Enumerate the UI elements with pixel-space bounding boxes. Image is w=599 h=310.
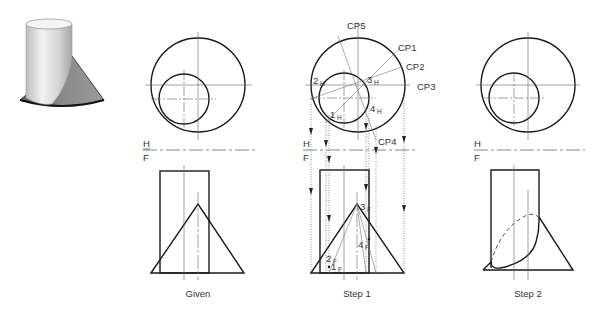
step2-h-label: H — [474, 138, 481, 149]
pictorial-3d-model — [20, 19, 104, 106]
given-front-view — [151, 165, 244, 280]
svg-text:F: F — [367, 206, 371, 213]
cutting-plane-cp1-line — [325, 48, 400, 123]
given-h-label: H — [143, 138, 150, 149]
label-cp2: CP2 — [406, 61, 424, 72]
step1-f-label: F — [303, 152, 309, 163]
point-1h: 1 H — [330, 109, 342, 121]
caption-given: Given — [186, 288, 211, 299]
svg-text:F: F — [365, 244, 369, 251]
caption-step2: Step 2 — [514, 288, 541, 299]
step2-top-view — [476, 32, 580, 140]
svg-text:4: 4 — [358, 239, 363, 250]
given-f-label: F — [143, 152, 149, 163]
label-cp4: CP4 — [378, 136, 396, 147]
svg-text:F: F — [338, 266, 342, 273]
caption-step1: Step 1 — [343, 288, 370, 299]
svg-text:H: H — [377, 108, 382, 115]
step2-f-label: F — [474, 152, 480, 163]
svg-text:1: 1 — [330, 109, 335, 120]
svg-text:4: 4 — [370, 103, 375, 114]
svg-text:3: 3 — [360, 201, 365, 212]
orthographic-drawing: H F Given CP5 CP1 CP2 CP3 CP4 — [0, 0, 599, 310]
step1-h-label: H — [303, 138, 310, 149]
label-cp1: CP1 — [398, 42, 416, 53]
svg-text:H: H — [374, 79, 379, 86]
step1-front-view — [311, 165, 404, 280]
point-4h: 4 H — [370, 103, 382, 115]
panel-given: H F Given — [143, 32, 255, 299]
svg-text:1: 1 — [331, 261, 336, 272]
panel-step1: CP5 CP1 CP2 CP3 CP4 2 H 3 H 1 H 4 H — [303, 20, 435, 299]
svg-text:3: 3 — [367, 74, 372, 85]
panel-step2: H F Step 2 — [474, 32, 585, 299]
step2-front-view — [483, 165, 573, 280]
svg-text:2: 2 — [313, 75, 318, 86]
svg-text:H: H — [320, 80, 325, 87]
label-cp5: CP5 — [347, 20, 365, 31]
given-top-view — [145, 32, 252, 140]
intersection-curve-hidden — [491, 214, 539, 262]
label-cp3: CP3 — [417, 81, 435, 92]
intersection-curve-visible — [491, 222, 539, 268]
svg-text:H: H — [337, 114, 342, 121]
